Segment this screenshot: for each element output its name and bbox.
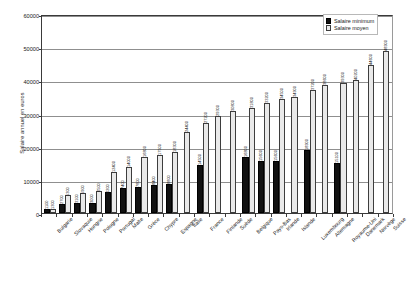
- bar-salaire-moyen: 39300: [340, 83, 346, 213]
- bar-value-label: 34900: [293, 86, 297, 97]
- bar-value-label: 44600: [369, 54, 373, 65]
- bar-value-label: 8800: [167, 175, 171, 184]
- x-axis-tick-mark: [163, 214, 164, 217]
- x-axis-tick-mark: [225, 214, 226, 217]
- bar-value-label: 24400: [185, 121, 189, 132]
- bar-group: 31005900: [73, 16, 88, 213]
- x-axis-label: Pologne: [102, 216, 120, 234]
- x-axis-label: Chypre: [163, 216, 179, 232]
- bar-value-label: 12400: [112, 161, 116, 172]
- x-axis-tick-mark: [209, 214, 210, 217]
- bar-salaire-moyen: 30800: [230, 111, 236, 213]
- x-axis-tick-mark: [332, 214, 333, 217]
- bar-salaire-moyen: 16800: [141, 157, 147, 213]
- bar-group: 29300: [210, 16, 225, 213]
- bar-salaire-moyen: 17500: [157, 155, 163, 213]
- x-axis-tick-mark: [362, 214, 363, 217]
- bar-salaire-moyen: 38600: [322, 85, 328, 213]
- bar-value-label: 34500: [280, 88, 284, 99]
- bar-value-label: 15100: [335, 152, 339, 163]
- bar-group: 1560033200: [256, 16, 271, 213]
- x-axis-tick-mark: [347, 214, 348, 217]
- bar-value-label: 15600: [259, 150, 263, 161]
- bar-salaire-moyen: 31800: [249, 108, 255, 213]
- bar-value-label: 8400: [152, 176, 156, 185]
- bar-salaire-moyen: 44600: [368, 65, 374, 213]
- bar-value-label: 2700: [60, 195, 64, 204]
- bar-value-label: 6200: [106, 184, 110, 193]
- x-axis-tick-mark: [301, 214, 302, 217]
- bar-group: 48900: [379, 16, 394, 213]
- legend-item-salaire-moyen: Salaire moyen: [326, 25, 374, 31]
- x-axis-label: Grèce: [147, 216, 161, 230]
- x-axis-tick-mark: [179, 214, 180, 217]
- bar-value-label: 17500: [158, 144, 162, 155]
- bar-value-label: 18900: [305, 140, 309, 151]
- y-axis-tick-label: 10000: [0, 179, 39, 185]
- bar-salaire-moyen: 5300: [65, 195, 71, 213]
- bar-group: 740014000: [119, 16, 134, 213]
- bar-value-label: 7800: [136, 178, 140, 187]
- plot-area: 0100002000030000400005000060000 11001300…: [41, 15, 393, 214]
- bar-salaire-moyen: 18300: [172, 152, 178, 213]
- y-axis-tick-label: 60000: [0, 13, 39, 19]
- bar-salaire-moyen: 14000: [126, 167, 132, 213]
- y-axis-tick-label: 0: [0, 212, 39, 218]
- bar-group: 34900: [287, 16, 302, 213]
- bar-value-label: 33200: [265, 92, 269, 103]
- legend-item-salaire-minimum: Salaire minimum: [326, 18, 374, 24]
- x-axis-label: Islande: [300, 216, 316, 232]
- bar-salaire-moyen: 33200: [264, 103, 270, 213]
- x-axis-tick-mark: [271, 214, 272, 217]
- y-axis-tick-label: 30000: [0, 113, 39, 119]
- bar-group: 1890037200: [302, 16, 317, 213]
- x-axis-tick-mark: [87, 214, 88, 217]
- x-axis-tick-mark: [41, 214, 42, 217]
- x-axis-tick-mark: [255, 214, 256, 217]
- bar-salaire-moyen: 37200: [310, 90, 316, 213]
- bar-group: 1680031800: [241, 16, 256, 213]
- x-axis-tick-mark: [118, 214, 119, 217]
- x-axis-label: Bulgarie: [56, 216, 74, 234]
- x-axis-tick-mark: [148, 214, 149, 217]
- bar-value-label: 3000: [91, 194, 95, 203]
- bar-group: 30006500: [88, 16, 103, 213]
- bar-value-label: 18300: [173, 141, 177, 152]
- chart-legend: Salaire minimum Salaire moyen: [323, 14, 378, 35]
- legend-swatch-icon-minimum: [326, 18, 331, 24]
- bar-value-label: 27200: [204, 112, 208, 123]
- bar-group: 780016800: [134, 16, 149, 213]
- bar-group: 1560034500: [272, 16, 287, 213]
- bar-group: 1510039300: [333, 16, 348, 213]
- bar-group: 1450027200: [195, 16, 210, 213]
- bar-group: 620012400: [103, 16, 118, 213]
- bar-value-label: 14500: [198, 154, 202, 165]
- bar-value-label: 29300: [216, 105, 220, 116]
- x-axis-tick-mark: [133, 214, 134, 217]
- bar-value-label: 6500: [97, 183, 101, 192]
- x-axis-tick-mark: [72, 214, 73, 217]
- bar-value-label: 16800: [244, 146, 248, 157]
- bar-group: 44600: [363, 16, 378, 213]
- bar-salaire-moyen: 34900: [291, 97, 297, 213]
- bar-value-label: 37200: [311, 79, 315, 90]
- bar-series-group: 1100130027005300310059003000650062001240…: [42, 16, 392, 213]
- bar-salaire-moyen: 6500: [96, 191, 102, 213]
- bar-group: 38600: [317, 16, 332, 213]
- legend-label-minimum: Salaire minimum: [334, 18, 374, 24]
- bar-salaire-moyen: 48900: [383, 51, 389, 213]
- x-axis-tick-mark: [378, 214, 379, 217]
- x-axis-tick-mark: [286, 214, 287, 217]
- bar-value-label: 15600: [274, 150, 278, 161]
- legend-label-moyen: Salaire moyen: [334, 25, 368, 31]
- x-axis-tick-mark: [240, 214, 241, 217]
- x-axis-tick-mark: [56, 214, 57, 217]
- x-axis-tick-mark: [194, 214, 195, 217]
- bar-value-label: 14000: [127, 156, 131, 167]
- bar-salaire-moyen: 29300: [215, 116, 221, 213]
- x-axis-labels: BulgarieSlovaquieHongriePolognePortugalM…: [41, 216, 393, 286]
- bar-value-label: 31800: [250, 97, 254, 108]
- bar-salaire-moyen: 40200: [353, 80, 359, 213]
- bar-group: 24400: [180, 16, 195, 213]
